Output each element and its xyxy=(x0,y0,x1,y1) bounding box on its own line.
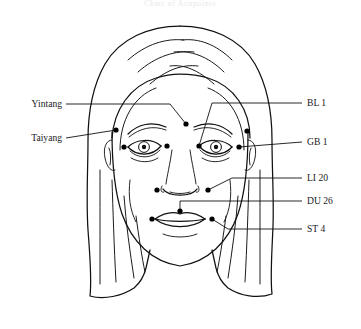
hair-strands-right xyxy=(217,170,260,284)
acupoint-bl1-right xyxy=(196,143,201,148)
mouth xyxy=(155,213,205,237)
label-du26: DU 26 xyxy=(307,195,333,206)
hair-strands-left xyxy=(100,170,145,284)
acupoint-st4-right xyxy=(209,216,214,221)
eye-right xyxy=(199,140,232,161)
leader-taiyang xyxy=(66,130,116,138)
eye-left xyxy=(128,140,161,161)
acupoint-li20-left xyxy=(154,187,159,192)
acupoint-st4-left xyxy=(149,216,154,221)
acupoint-li20-right xyxy=(205,187,210,192)
acupoint-taiyang-right xyxy=(244,128,249,133)
label-li20: LI 20 xyxy=(307,172,328,183)
leader-lines xyxy=(66,103,302,229)
acupoint-taiyang-left xyxy=(113,127,118,132)
acupoint-figure: Chart of Acupoints xyxy=(0,0,361,329)
leader-li20 xyxy=(208,178,302,190)
label-gb1: GB 1 xyxy=(307,136,328,147)
label-taiyang: Taiyang xyxy=(31,132,62,143)
label-yintang: Yintang xyxy=(32,98,63,109)
hair-crown-lines xyxy=(112,40,250,150)
labels-right-group: BL 1 GB 1 LI 20 DU 26 ST 4 xyxy=(307,97,333,234)
acupoint-gb1-left xyxy=(121,144,126,149)
acupoint-yintang xyxy=(183,121,188,126)
label-st4: ST 4 xyxy=(307,223,325,234)
label-bl1: BL 1 xyxy=(307,97,326,108)
acupoint-gb1-right xyxy=(236,144,241,149)
acupoint-du26 xyxy=(177,208,182,213)
labels-left-group: Yintang Taiyang xyxy=(31,98,62,143)
figure-title: Chart of Acupoints xyxy=(144,0,216,8)
acupoint-bl1-left xyxy=(164,143,169,148)
nose xyxy=(161,150,199,195)
eyebrows xyxy=(128,124,232,137)
leader-yintang xyxy=(66,104,186,124)
